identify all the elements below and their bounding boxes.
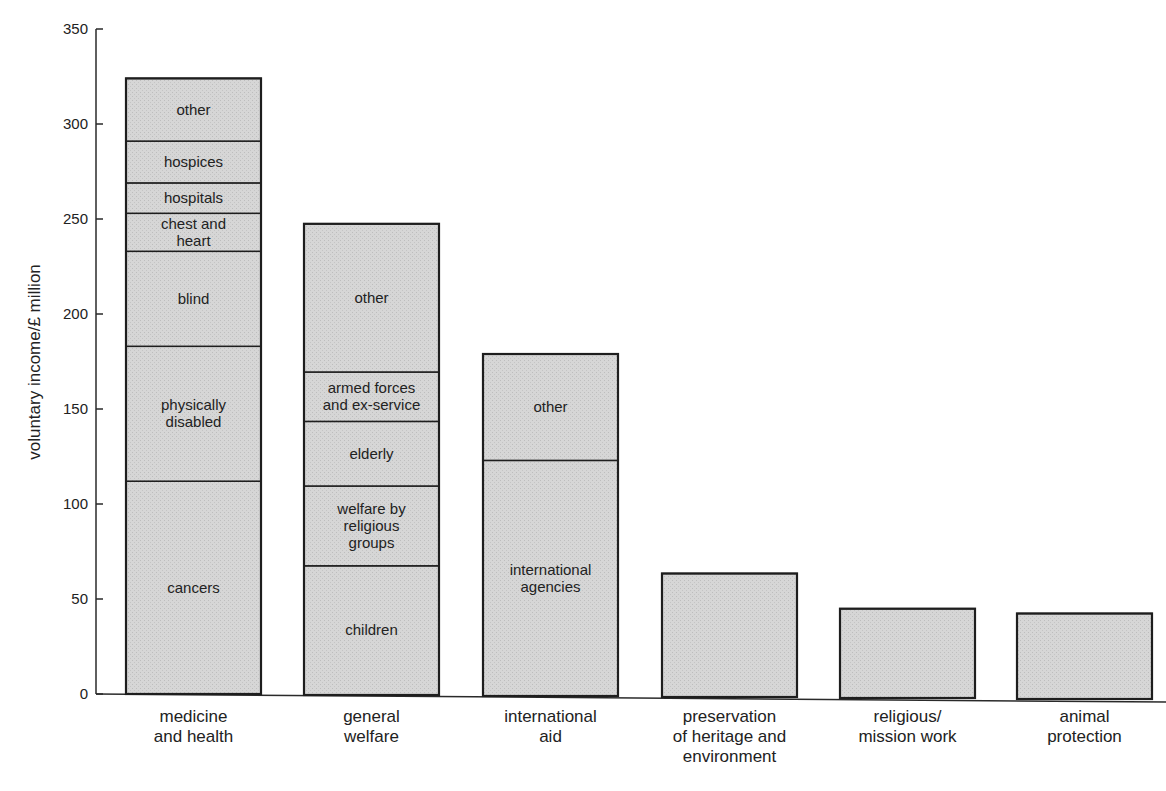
category-label: of heritage and — [673, 727, 786, 746]
segment-label: religious — [344, 517, 400, 534]
segment-label: children — [345, 621, 398, 638]
segment-label: chest and — [161, 215, 226, 232]
bar-general-welfare: childrenwelfare byreligiousgroupselderly… — [304, 224, 439, 695]
bar-religious-mission-work — [840, 609, 975, 698]
segment-label: hospitals — [164, 189, 223, 206]
segment-label: heart — [176, 232, 211, 249]
segment-label: hospices — [164, 153, 223, 170]
y-tick-label: 150 — [63, 400, 88, 417]
segment-label: physically — [161, 396, 227, 413]
category-label: animal — [1059, 707, 1109, 726]
bars-group: cancersphysicallydisabledblindchest andh… — [126, 78, 1152, 699]
bar-animal-protection — [1017, 614, 1152, 700]
x-axis-labels: medicineand healthgeneralwelfareinternat… — [154, 707, 1122, 766]
category-label: mission work — [858, 727, 957, 746]
segment-label: blind — [178, 290, 210, 307]
segment-label: agencies — [520, 578, 580, 595]
y-tick-label: 0 — [80, 685, 88, 702]
category-label: religious/ — [873, 707, 941, 726]
bar-medicine-and-health: cancersphysicallydisabledblindchest andh… — [126, 78, 261, 694]
category-label: protection — [1047, 727, 1122, 746]
bar-preservation-of-heritage-and-environment — [662, 574, 797, 698]
y-tick-label: 300 — [63, 115, 88, 132]
segment-label: elderly — [349, 445, 394, 462]
category-label: environment — [683, 747, 777, 766]
segment-label: welfare by — [336, 500, 406, 517]
segment-label: other — [533, 398, 567, 415]
y-tick-label: 50 — [71, 590, 88, 607]
bar-segment — [840, 609, 975, 698]
y-tick-label: 350 — [63, 20, 88, 37]
category-label: aid — [539, 727, 562, 746]
segment-label: armed forces — [328, 379, 416, 396]
bar-segment — [662, 574, 797, 698]
y-axis-title: voluntary income/£ million — [25, 264, 44, 460]
y-tick-label: 100 — [63, 495, 88, 512]
category-label: preservation — [683, 707, 777, 726]
segment-label: cancers — [167, 579, 220, 596]
category-label: and health — [154, 727, 233, 746]
category-label: general — [343, 707, 400, 726]
category-label: welfare — [343, 727, 399, 746]
y-tick-label: 200 — [63, 305, 88, 322]
segment-label: other — [354, 289, 388, 306]
segment-label: and ex-service — [323, 396, 421, 413]
bar-international-aid: internationalagenciesother — [483, 354, 618, 696]
segment-label: other — [176, 101, 210, 118]
segment-label: disabled — [166, 413, 222, 430]
category-label: international — [504, 707, 597, 726]
category-label: medicine — [159, 707, 227, 726]
x-axis-baseline — [96, 694, 1166, 702]
y-tick-label: 250 — [63, 210, 88, 227]
bar-segment — [1017, 614, 1152, 700]
segment-label: international — [510, 561, 592, 578]
stacked-bar-chart: 050100150200250300350 cancersphysicallyd… — [0, 0, 1166, 791]
segment-label: groups — [349, 534, 395, 551]
